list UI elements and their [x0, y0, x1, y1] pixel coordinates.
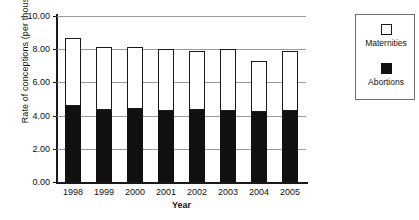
- bar-group: 2003: [220, 16, 236, 182]
- bar-segment-maternities: [220, 49, 236, 110]
- bar-group: 2004: [251, 16, 267, 182]
- bar-segment-maternities: [96, 47, 112, 110]
- bar-segment-maternities: [282, 51, 298, 111]
- legend-label-abortions: Abortions: [356, 77, 416, 87]
- bar-segment-abortions: [189, 110, 205, 182]
- y-tick-label: 0.00: [32, 177, 50, 187]
- chart-legend: Maternities Abortions: [355, 14, 415, 100]
- gridline: [57, 49, 306, 50]
- y-axis-line: [56, 14, 58, 184]
- x-tick-label: 2003: [218, 187, 238, 197]
- y-tick-mark: [53, 116, 57, 117]
- bar-segment-abortions: [282, 111, 298, 182]
- legend-item-maternities: Maternities: [356, 24, 416, 48]
- bar-segment-maternities: [251, 61, 267, 112]
- x-tick-label: 2000: [125, 187, 145, 197]
- bar-group: 2000: [127, 16, 143, 182]
- y-tick-label: 10.00: [27, 11, 50, 21]
- plot-area: 0.002.004.006.008.0010.00199819992000200…: [57, 16, 306, 182]
- bar-group: 1998: [65, 16, 81, 182]
- legend-item-abortions: Abortions: [356, 63, 416, 87]
- y-tick-mark: [53, 182, 57, 183]
- bar-segment-maternities: [65, 38, 81, 107]
- bar-group: 1999: [96, 16, 112, 182]
- x-tick-label: 2005: [280, 187, 300, 197]
- bar-segment-maternities: [158, 49, 174, 110]
- legend-label-maternities: Maternities: [356, 38, 416, 48]
- x-axis-line: [56, 182, 308, 184]
- bar-group: 2005: [282, 16, 298, 182]
- x-tick-label: 1998: [63, 187, 83, 197]
- x-tick-label: 2001: [156, 187, 176, 197]
- x-tick-label: 1999: [94, 187, 114, 197]
- x-axis-title: Year: [57, 200, 306, 210]
- black-square-icon: [381, 63, 392, 74]
- x-tick-label: 2004: [249, 187, 269, 197]
- bar-segment-abortions: [251, 112, 267, 182]
- bar-segment-maternities: [189, 51, 205, 110]
- conceptions-stacked-bar-chart: Rate of conceptions (per thousands) 0.00…: [0, 0, 419, 220]
- y-tick-label: 8.00: [32, 44, 50, 54]
- y-tick-mark: [53, 16, 57, 17]
- bar-group: 2001: [158, 16, 174, 182]
- gridline: [57, 82, 306, 83]
- bar-segment-maternities: [127, 47, 143, 109]
- white-square-icon: [381, 24, 392, 35]
- gridline: [57, 116, 306, 117]
- y-tick-mark: [53, 49, 57, 50]
- y-tick-label: 6.00: [32, 77, 50, 87]
- bar-segment-abortions: [220, 111, 236, 182]
- y-tick-mark: [53, 82, 57, 83]
- bar-segment-abortions: [96, 110, 112, 182]
- y-tick-mark: [53, 149, 57, 150]
- gridline: [57, 149, 306, 150]
- bar-segment-abortions: [158, 111, 174, 182]
- gridline: [57, 16, 306, 17]
- x-tick-label: 2002: [187, 187, 207, 197]
- bar-segment-abortions: [65, 106, 81, 182]
- bar-group: 2002: [189, 16, 205, 182]
- y-tick-label: 4.00: [32, 111, 50, 121]
- bar-segment-abortions: [127, 109, 143, 182]
- y-tick-label: 2.00: [32, 144, 50, 154]
